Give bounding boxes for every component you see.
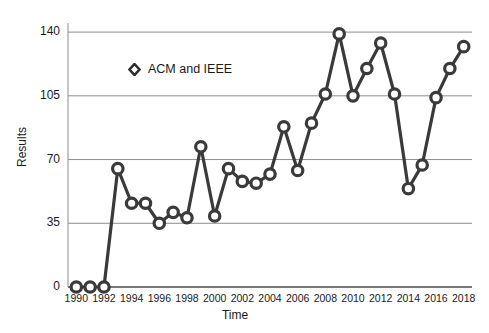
- y-tick-label: 35: [14, 215, 60, 229]
- data-point-marker: [223, 163, 233, 173]
- legend: ACM and IEEE: [128, 62, 232, 76]
- data-point-marker: [113, 163, 123, 173]
- data-point-marker: [292, 165, 302, 175]
- data-point-marker: [251, 178, 261, 188]
- data-point-marker: [348, 91, 358, 101]
- data-point-marker: [403, 183, 413, 193]
- data-point-marker: [237, 176, 247, 186]
- diamond-open-icon: [128, 63, 141, 76]
- line-chart: Results Time 03570105140 199019921994199…: [0, 0, 489, 333]
- data-point-marker: [389, 89, 399, 99]
- x-tick-label: 2018: [448, 292, 480, 304]
- data-point-marker: [306, 118, 316, 128]
- y-tick-label: 70: [14, 152, 60, 166]
- data-point-marker: [431, 92, 441, 102]
- data-point-marker: [279, 122, 289, 132]
- data-point-marker: [265, 169, 275, 179]
- data-point-marker: [417, 160, 427, 170]
- data-point-marker: [375, 38, 385, 48]
- data-point-marker: [154, 218, 164, 228]
- data-point-marker: [168, 207, 178, 217]
- data-point-marker: [99, 282, 109, 292]
- data-point-marker: [182, 213, 192, 223]
- data-point-marker: [209, 211, 219, 221]
- y-tick-label: 105: [14, 88, 60, 102]
- data-point-marker: [140, 198, 150, 208]
- data-point-marker: [320, 89, 330, 99]
- y-axis-title: Results: [15, 117, 29, 177]
- x-axis-title: Time: [205, 308, 265, 322]
- data-point-marker: [85, 282, 95, 292]
- data-point-marker: [196, 142, 206, 152]
- data-point-marker: [71, 282, 81, 292]
- y-tick-label: 0: [14, 279, 60, 293]
- y-tick-label: 140: [14, 24, 60, 38]
- data-point-marker: [445, 63, 455, 73]
- data-point-marker: [459, 41, 469, 51]
- data-point-marker: [362, 63, 372, 73]
- data-point-marker: [126, 198, 136, 208]
- plot-area: [0, 0, 489, 333]
- data-point-marker: [334, 29, 344, 39]
- legend-label-acm-and-ieee: ACM and IEEE: [148, 62, 232, 76]
